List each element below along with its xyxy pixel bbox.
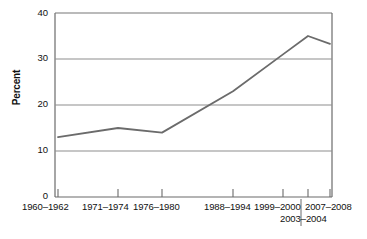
x-tick-label-1999-2000: 1999–2000: [254, 201, 301, 212]
x-tick-label-1971-1974: 1971–1974: [82, 201, 129, 212]
x-tick-label-2003-2004: 2003–2004: [280, 213, 327, 224]
x-tick-label-1960-1962: 1960–1962: [22, 201, 69, 212]
line-chart: Percent 40 30 20 10 0 1960–1962 1971–197…: [0, 0, 367, 239]
x-tick-label-1988-1994: 1988–1994: [204, 201, 251, 212]
data-series-percent: [58, 36, 330, 137]
x-tick-label-1976-1980: 1976–1980: [133, 201, 180, 212]
x-tick-label-2007-2008: 2007–2008: [305, 201, 352, 212]
